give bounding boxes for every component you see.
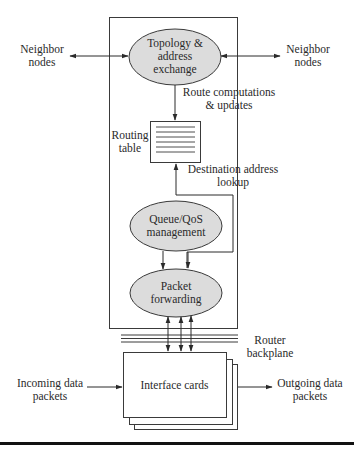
neighbor-left-label: Neighbor nodes <box>14 43 70 69</box>
queue-label: Queue/QoS management <box>131 213 221 239</box>
route-updates-label: Route computations & updates <box>179 86 279 112</box>
neighbor-right-label: Neighbor nodes <box>280 43 336 69</box>
interface-cards-label: Interface cards <box>123 379 226 392</box>
destination-lookup-label: Destination address lookup <box>183 163 283 189</box>
routing-table-label: Routing table <box>110 129 150 155</box>
forwarding-label: Packet forwarding <box>131 280 221 306</box>
topology-label: Topology & address exchange <box>130 37 220 76</box>
incoming-label: Incoming data packets <box>14 377 86 403</box>
bottom-rule <box>0 442 354 445</box>
outgoing-label: Outgoing data packets <box>272 377 348 403</box>
backplane-label: Router backplane <box>240 334 300 360</box>
router-backplane <box>121 335 238 342</box>
backplane-arrows <box>168 316 191 351</box>
